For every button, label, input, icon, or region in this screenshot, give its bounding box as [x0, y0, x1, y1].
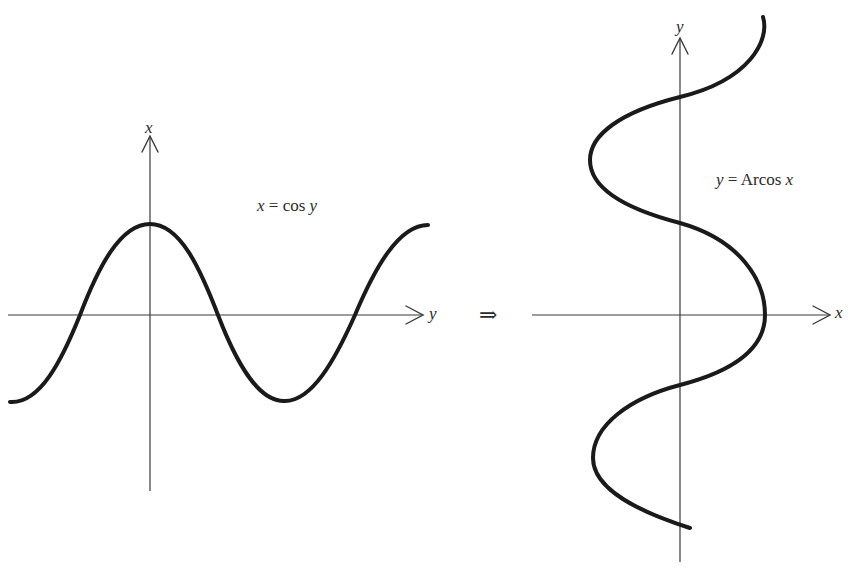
implies-arrow-icon: ⇒: [479, 304, 497, 326]
cosine-curve: [10, 224, 428, 402]
right-equation-argument: x: [786, 170, 794, 189]
left-equation: x = cos y: [257, 197, 317, 214]
left-equation-function: cos: [283, 196, 306, 215]
left-graph: [8, 136, 428, 491]
arccos-curve: [590, 17, 765, 528]
left-equation-argument: y: [310, 196, 318, 215]
right-vertical-axis-label: y: [676, 18, 684, 35]
left-equation-equals: =: [269, 196, 279, 215]
right-equation-lhs: y: [716, 170, 724, 189]
right-equation: y = Arcos x: [716, 171, 793, 188]
right-graph: [532, 17, 830, 562]
figure: [0, 0, 853, 574]
left-vertical-axis-label: x: [145, 119, 153, 136]
right-horizontal-axis-label: x: [835, 304, 843, 321]
left-equation-lhs: x: [257, 196, 265, 215]
left-horizontal-axis-label: y: [429, 305, 437, 322]
right-equation-function: Arcos: [741, 170, 782, 189]
right-equation-equals: =: [728, 170, 738, 189]
